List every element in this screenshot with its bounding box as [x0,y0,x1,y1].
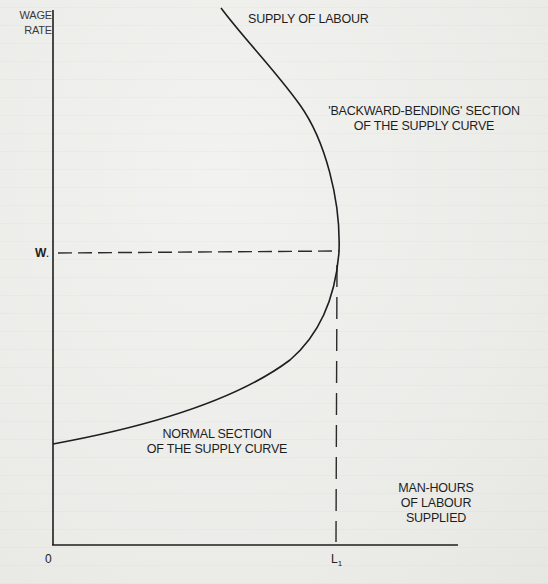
backward-bending-label: 'BACKWARD-BENDING' SECTION OF THE SUPPLY… [324,104,524,134]
curve-label: SUPPLY OF LABOUR [248,12,369,27]
normal-section-label-line-1: NORMAL SECTION [142,427,292,442]
normal-section-label-line-2: OF THE SUPPLY CURVE [142,442,292,457]
y-axis-label: WAGE RATE [16,8,52,38]
w1-tick-label: W. [35,246,49,260]
l1-tick-label: L1 [331,552,342,568]
w1-tick-letter: W [35,246,46,260]
w1-reference-line [58,251,339,253]
diagram-page: WAGE RATE SUPPLY OF LABOUR 'BACKWARD-BEN… [0,0,548,584]
y-axis-label-line-1: WAGE [16,8,52,23]
l1-tick-subscript: 1 [338,559,342,568]
x-axis-label: MAN-HOURS OF LABOUR SUPPLIED [396,481,476,526]
supply-of-labour-curve [53,8,339,444]
x-axis-label-line-2: OF LABOUR [396,496,476,511]
l1-reference-line [336,265,337,542]
x-axis-label-line-3: SUPPLIED [396,511,476,526]
x-axis-label-line-1: MAN-HOURS [396,481,476,496]
origin-tick-label: 0 [45,552,52,566]
backward-bending-label-line-1: 'BACKWARD-BENDING' SECTION [324,104,524,119]
backward-bending-label-line-2: OF THE SUPPLY CURVE [324,119,524,134]
l1-tick-letter: L [331,552,338,566]
normal-section-label: NORMAL SECTION OF THE SUPPLY CURVE [142,427,292,457]
w1-tick-dot: . [46,249,49,259]
y-axis-label-line-2: RATE [16,23,52,38]
